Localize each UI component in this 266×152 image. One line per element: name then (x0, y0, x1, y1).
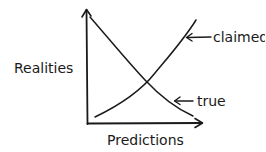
claimed-annotation: claimed (187, 29, 266, 45)
claimed-label: claimed (213, 29, 265, 45)
x-axis (88, 119, 203, 128)
claimed-curve (95, 20, 196, 117)
y-axis-label: Realities (14, 60, 73, 76)
y-axis (82, 10, 91, 125)
arrow-left-icon (187, 37, 211, 38)
true-annotation: true (175, 93, 226, 109)
true-label: true (197, 93, 226, 109)
diagram: claimed true Realities Predictions (0, 0, 265, 152)
x-axis-label: Predictions (107, 132, 184, 148)
